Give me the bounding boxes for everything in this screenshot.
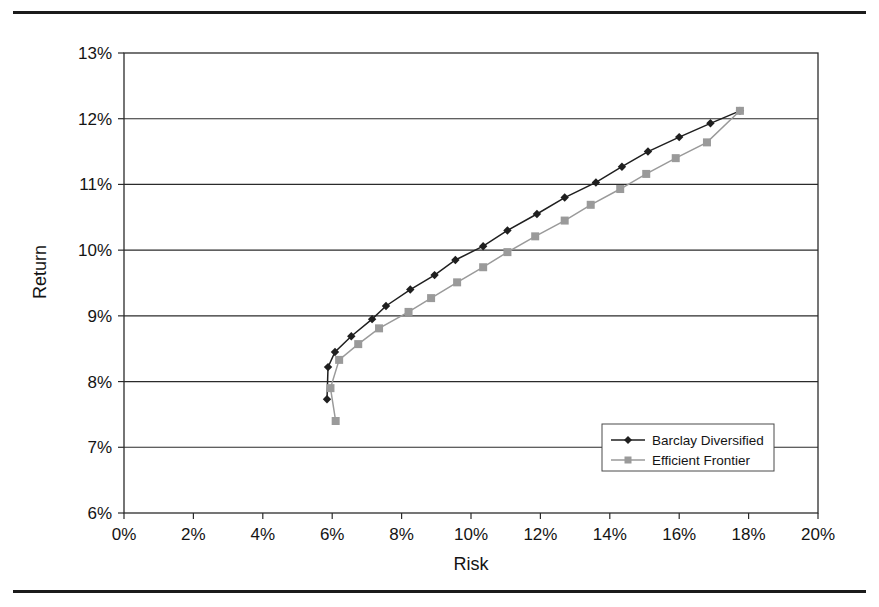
diamond-marker-icon xyxy=(479,242,487,250)
diamond-marker-icon xyxy=(406,285,414,293)
square-marker-icon xyxy=(625,457,632,464)
chart-legend[interactable]: Barclay Diversified Efficient Frontier xyxy=(602,424,774,471)
square-marker-icon xyxy=(531,232,539,240)
y-axis-title: Return xyxy=(30,245,50,299)
legend-label-efficient-frontier: Efficient Frontier xyxy=(652,453,751,468)
y-axis-tick-label: 11% xyxy=(79,175,112,194)
x-axis-tick-label: 8% xyxy=(389,525,414,544)
square-marker-icon xyxy=(587,201,595,209)
square-marker-icon xyxy=(479,263,487,271)
y-axis-tick-label: 6% xyxy=(87,504,112,523)
data-series-layer xyxy=(323,107,744,425)
square-marker-icon xyxy=(703,138,711,146)
x-axis-title: Risk xyxy=(454,554,490,574)
square-marker-icon xyxy=(326,384,334,392)
y-axis-tick-label: 7% xyxy=(87,438,112,457)
diamond-marker-icon xyxy=(618,162,626,170)
diamond-marker-icon xyxy=(592,178,600,186)
square-marker-icon xyxy=(332,417,340,425)
x-axis-tick-group: 0%2%4%6%8%10%12%14%16%18%20% xyxy=(112,513,835,544)
square-marker-icon xyxy=(335,356,343,364)
square-marker-icon xyxy=(642,170,650,178)
square-marker-icon xyxy=(354,340,362,348)
diamond-marker-icon xyxy=(675,133,683,141)
diamond-marker-icon xyxy=(644,147,652,155)
risk-return-scatter-line-chart: 6%7%8%9%10%11%12%13% 0%2%4%6%8%10%12%14%… xyxy=(0,0,879,607)
y-axis-tick-label: 13% xyxy=(78,44,112,63)
gridlines-group xyxy=(124,119,818,448)
series-barclay-diversified xyxy=(323,107,744,404)
series-efficient-frontier xyxy=(326,107,743,425)
y-axis-tick-group: 6%7%8%9%10%11%12%13% xyxy=(78,44,124,523)
square-marker-icon xyxy=(736,107,744,115)
chart-figure: 6%7%8%9%10%11%12%13% 0%2%4%6%8%10%12%14%… xyxy=(0,0,879,607)
diamond-marker-icon xyxy=(323,395,331,403)
y-axis-tick-label: 10% xyxy=(78,241,112,260)
legend-label-barclay-diversified: Barclay Diversified xyxy=(652,433,764,448)
diamond-marker-icon xyxy=(503,226,511,234)
square-marker-icon xyxy=(405,308,413,316)
x-axis-tick-label: 0% xyxy=(112,525,137,544)
square-marker-icon xyxy=(616,185,624,193)
square-marker-icon xyxy=(561,217,569,225)
x-axis-tick-label: 18% xyxy=(732,525,766,544)
diamond-marker-icon xyxy=(533,210,541,218)
series-line xyxy=(327,111,740,399)
x-axis-tick-label: 20% xyxy=(801,525,835,544)
diamond-marker-icon xyxy=(324,363,332,371)
x-axis-tick-label: 4% xyxy=(251,525,276,544)
x-axis-tick-label: 2% xyxy=(181,525,206,544)
x-axis-tick-label: 14% xyxy=(593,525,627,544)
diamond-marker-icon xyxy=(560,193,568,201)
square-marker-icon xyxy=(453,278,461,286)
x-axis-tick-label: 16% xyxy=(662,525,696,544)
y-axis-tick-label: 12% xyxy=(78,110,112,129)
y-axis-tick-label: 9% xyxy=(87,307,112,326)
x-axis-tick-label: 6% xyxy=(320,525,345,544)
square-marker-icon xyxy=(427,294,435,302)
square-marker-icon xyxy=(503,248,511,256)
x-axis-tick-label: 12% xyxy=(523,525,557,544)
x-axis-tick-label: 10% xyxy=(454,525,488,544)
y-axis-tick-label: 8% xyxy=(87,373,112,392)
diamond-marker-icon xyxy=(706,119,714,127)
square-marker-icon xyxy=(672,154,680,162)
square-marker-icon xyxy=(375,324,383,332)
